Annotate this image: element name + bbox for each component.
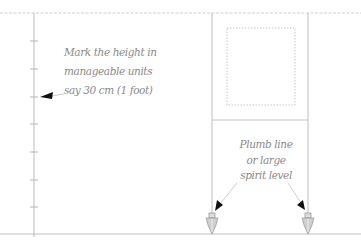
- plumb-annotation-line-2: or large: [222, 153, 310, 169]
- measure-arrow-icon: [40, 92, 64, 99]
- measure-annotation-line-3: say 30 cm (1 foot): [64, 81, 157, 100]
- plumb-arrow-left-icon: [215, 183, 237, 211]
- plumb-arrow-right-icon: [288, 183, 305, 210]
- diagram-drawing: [0, 0, 361, 244]
- plumb-annotation: Plumb line or large spirit level: [222, 137, 310, 184]
- window-opening: [227, 28, 295, 105]
- plumb-bob-right-icon: [302, 213, 314, 234]
- measure-annotation: Mark the height in manageable units say …: [64, 43, 157, 100]
- plumb-annotation-line-1: Plumb line: [222, 137, 310, 153]
- measure-annotation-line-1: Mark the height in: [64, 43, 157, 62]
- plumb-bob-left-icon: [206, 213, 218, 234]
- measure-annotation-line-2: manageable units: [64, 62, 157, 81]
- diagram-canvas: Mark the height in manageable units say …: [0, 0, 361, 244]
- plumb-annotation-line-3: spirit level: [222, 168, 310, 184]
